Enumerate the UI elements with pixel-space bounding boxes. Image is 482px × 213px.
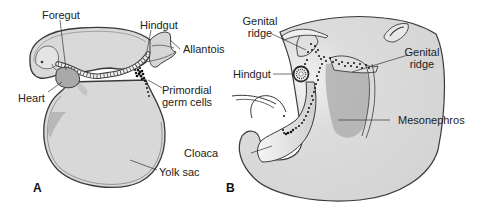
- label-genital-ridge-right-line2: ridge: [402, 58, 442, 70]
- label-yolk-sac: Yolk sac: [159, 166, 200, 178]
- label-hindgut-b: Hindgut: [233, 68, 271, 80]
- label-primordial-germ-cells-line1: Primordial: [162, 84, 212, 96]
- panel-b-illustration: [232, 17, 445, 201]
- label-heart: Heart: [18, 92, 45, 104]
- panel-a-illustration: [30, 20, 180, 187]
- yolk-sac-shape: [44, 80, 165, 187]
- label-primordial-germ-cells-line2: germ cells: [162, 96, 212, 108]
- label-genital-ridge-left-line1: Genital: [240, 15, 280, 27]
- panel-label-b: B: [226, 181, 235, 195]
- label-allantois: Allantois: [183, 43, 225, 55]
- panel-label-a: A: [33, 181, 42, 195]
- label-cloaca: Cloaca: [184, 147, 218, 159]
- label-hindgut-a: Hindgut: [140, 19, 178, 31]
- hindgut-ring-b: [294, 67, 309, 82]
- label-mesonephros: Mesonephros: [398, 114, 465, 126]
- embryo-germ-cell-migration-figure: Foregut Hindgut Allantois Heart Primordi…: [0, 0, 482, 213]
- allantois-shape: [149, 32, 176, 67]
- label-genital-ridge-right-line1: Genital: [402, 46, 442, 58]
- label-genital-ridge-left-line2: ridge: [240, 27, 280, 39]
- label-foregut: Foregut: [42, 9, 80, 21]
